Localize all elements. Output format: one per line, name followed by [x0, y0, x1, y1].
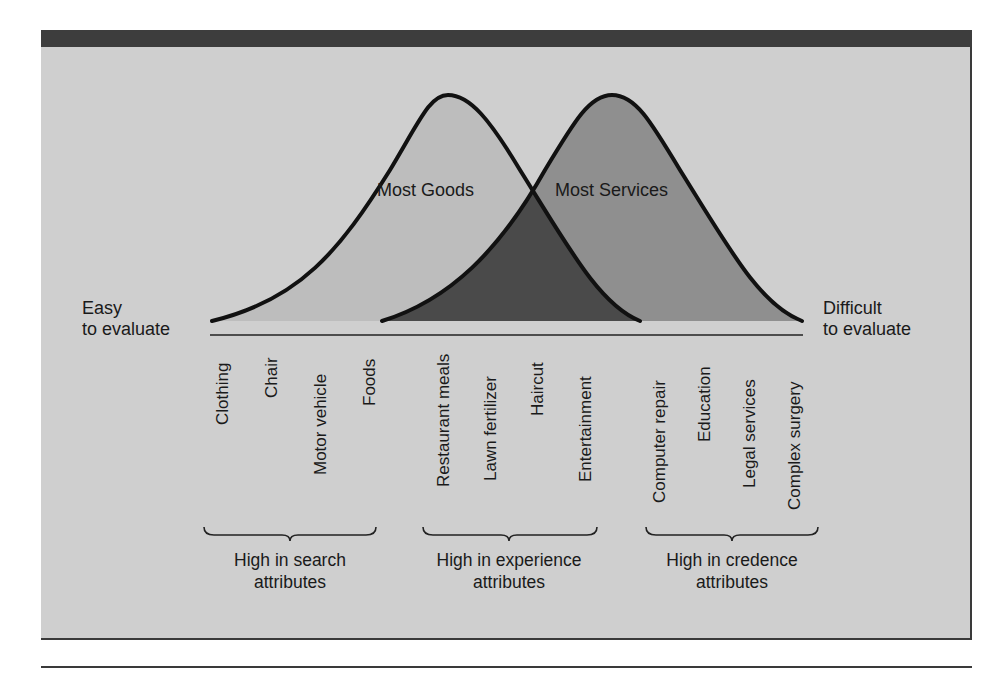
item-restaurant-meals: Restaurant meals [434, 354, 454, 487]
group-experience-caption: High in experience attributes [399, 549, 619, 593]
item-foods: Foods [360, 359, 380, 406]
services-label: Most Services [555, 180, 668, 201]
group-search-line2: attributes [180, 571, 400, 593]
item-legal-services: Legal services [740, 379, 760, 488]
item-clothing: Clothing [213, 363, 233, 425]
group-experience-line2: attributes [399, 571, 619, 593]
item-lawn-fertilizer: Lawn fertilizer [481, 376, 501, 481]
group-credence-caption: High in credence attributes [622, 549, 842, 593]
difficult-label-line1: Difficult [823, 298, 882, 319]
item-entertainment: Entertainment [576, 376, 596, 482]
group-credence-line1: High in credence [622, 549, 842, 571]
goods-label: Most Goods [377, 180, 474, 201]
easy-label-line1: Easy [82, 298, 122, 319]
item-computer-repair: Computer repair [650, 380, 670, 503]
item-motor-vehicle: Motor vehicle [311, 374, 331, 475]
brace-experience [423, 527, 597, 541]
group-experience-line1: High in experience [399, 549, 619, 571]
brace-search [204, 527, 376, 541]
brace-credence [646, 527, 818, 541]
group-search-line1: High in search [180, 549, 400, 571]
item-complex-surgery: Complex surgery [785, 382, 805, 511]
easy-label-line2: to evaluate [82, 319, 170, 340]
item-education: Education [695, 366, 715, 442]
group-search-caption: High in search attributes [180, 549, 400, 593]
item-chair: Chair [262, 357, 282, 398]
difficult-label-line2: to evaluate [823, 319, 911, 340]
group-credence-line2: attributes [622, 571, 842, 593]
item-haircut: Haircut [528, 362, 548, 416]
